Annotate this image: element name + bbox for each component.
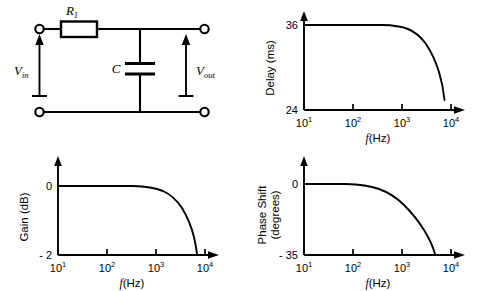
gain-ytick-label-neg2: - 2 xyxy=(39,249,52,261)
phase-chart-svg: 0 - 35 101 102 103 104 f(Hz) Phase Shift… xyxy=(236,145,483,291)
phase-y-axis-title-line2: (degrees) xyxy=(269,190,281,239)
circuit-svg: R1 C Vin Vout xyxy=(0,0,240,145)
delay-y-axis-title: Delay (ms) xyxy=(264,40,276,96)
delay-ytick-label-24: 24 xyxy=(286,104,298,116)
delay-xtick-label-2: 102 xyxy=(345,115,361,129)
gain-y-axis-title: Gain (dB) xyxy=(18,192,30,241)
phase-xtick-label-1: 101 xyxy=(296,260,312,274)
gain-y-axis-arrow-icon xyxy=(54,156,62,166)
phase-x-axis-title: f(Hz) xyxy=(366,277,391,290)
delay-chart: 36 24 101 102 103 104 f(Hz) Delay (ms) xyxy=(236,0,483,145)
vout-label: Vout xyxy=(196,63,215,80)
phase-xtick-label-4: 104 xyxy=(443,260,459,274)
gain-chart-svg: 0 - 2 101 102 103 104 f(Hz) Gain (dB) xyxy=(0,145,240,291)
phase-x-axis-arrow-icon xyxy=(454,251,465,259)
gain-chart: 0 - 2 101 102 103 104 f(Hz) Gain (dB) xyxy=(0,145,240,291)
delay-xtick-label-1: 101 xyxy=(296,115,312,129)
capacitor-label: C xyxy=(112,61,121,76)
phase-y-axis-arrow-icon xyxy=(300,156,308,166)
terminal-output-top xyxy=(200,25,208,33)
phase-y-axis-title-line1: Phase Shift xyxy=(256,185,268,245)
delay-curve xyxy=(304,25,445,100)
gain-xtick-label-1: 101 xyxy=(50,260,66,274)
terminal-output-bottom xyxy=(200,108,208,116)
gain-x-axis-arrow-icon xyxy=(208,251,219,259)
gain-xtick-label-4: 104 xyxy=(197,260,213,274)
phase-xtick-label-3: 103 xyxy=(394,260,410,274)
delay-x-axis-arrow-icon xyxy=(454,106,465,114)
delay-y-axis-arrow-icon xyxy=(300,11,308,21)
resistor-label: R1 xyxy=(65,3,78,20)
phase-curve xyxy=(304,184,435,254)
terminal-input-bottom xyxy=(35,108,43,116)
gain-ytick-label-0: 0 xyxy=(46,180,52,192)
phase-ytick-label-neg35: - 35 xyxy=(279,249,298,261)
phase-ytick-label-0: 0 xyxy=(292,178,298,190)
rc-circuit-diagram: R1 C Vin Vout xyxy=(0,0,240,145)
gain-xtick-label-3: 103 xyxy=(148,260,164,274)
gain-xtick-label-2: 102 xyxy=(99,260,115,274)
delay-xtick-label-3: 103 xyxy=(394,115,410,129)
phase-shift-chart: 0 - 35 101 102 103 104 f(Hz) Phase Shift… xyxy=(236,145,483,291)
vin-label: Vin xyxy=(14,63,29,80)
delay-chart-svg: 36 24 101 102 103 104 f(Hz) Delay (ms) xyxy=(236,0,483,145)
delay-x-axis-title: f(Hz) xyxy=(366,132,391,145)
delay-ytick-label-36: 36 xyxy=(286,19,298,31)
vout-arrow-head-icon xyxy=(182,34,190,45)
gain-curve xyxy=(58,186,197,254)
phase-xtick-label-2: 102 xyxy=(345,260,361,274)
terminal-input-top xyxy=(35,25,43,33)
resistor-body xyxy=(61,22,97,38)
vin-arrow-head-icon xyxy=(35,34,43,45)
gain-x-axis-title: f(Hz) xyxy=(120,277,145,290)
delay-xtick-label-4: 104 xyxy=(443,115,459,129)
